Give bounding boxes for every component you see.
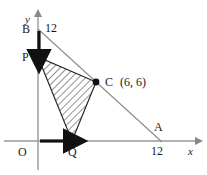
point-label-P: P [22,51,29,63]
origin-label-O: O [18,146,27,158]
point-C [93,79,100,86]
geometry-figure [0,0,207,175]
point-label-Q: Q [68,146,77,158]
point-Q [69,138,76,145]
figure-canvas: y B 12 P C (6, 6) A 12 x O Q [0,0,207,175]
y-tick-label-12: 12 [45,22,57,34]
x-tick-label-12: 12 [151,145,163,157]
point-P [35,54,42,61]
point-label-B: B [22,23,30,35]
x-axis-label: x [188,146,193,157]
point-C-coordinates: (6, 6) [120,76,146,88]
point-label-A: A [154,121,163,133]
shaded-triangle-PQC [38,57,96,141]
point-label-C: C [105,76,113,88]
